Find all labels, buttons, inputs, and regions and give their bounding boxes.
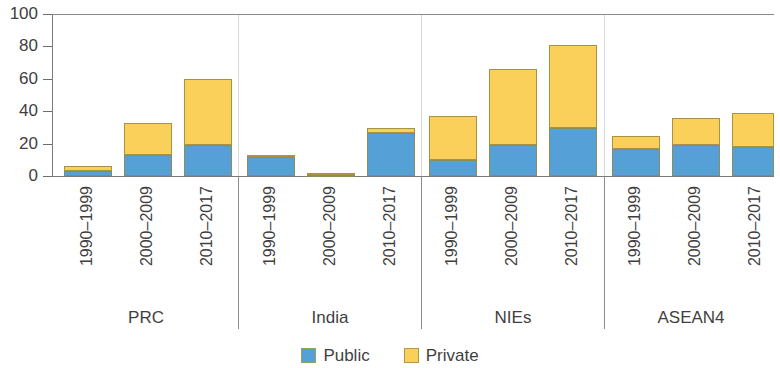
x-tick-nies-2000-2009: 2000–2009 [503, 186, 521, 296]
legend-label-public: Public [323, 347, 369, 364]
x-tick-asean4-2000-2009: 2000–2009 [686, 186, 704, 296]
group-label-asean4: ASEAN4 [606, 307, 776, 329]
x-tick-prc-2000-2009: 2000–2009 [138, 186, 156, 296]
legend-label-private: Private [426, 347, 479, 364]
chart-legend: Public Private [0, 344, 780, 366]
x-tick-asean4-1990-1999: 1990–1999 [626, 186, 644, 296]
group-label-india: India [240, 307, 420, 329]
x-tick-india-2010-2017: 2010–2017 [381, 186, 399, 296]
stacked-bar-chart: 100 80 60 40 20 0 [0, 0, 780, 368]
x-tick-prc-1990-1999: 1990–1999 [78, 186, 96, 296]
group-label-nies: NIEs [423, 307, 603, 329]
x-tick-india-1990-1999: 1990–1999 [261, 186, 279, 296]
x-tick-nies-1990-1999: 1990–1999 [443, 186, 461, 296]
legend-item-public: Public [301, 347, 369, 364]
x-tick-india-2000-2009: 2000–2009 [321, 186, 339, 296]
group-label-prc: PRC [56, 307, 236, 329]
x-tick-asean4-2010-2017: 2010–2017 [746, 186, 764, 296]
x-tick-nies-2010-2017: 2010–2017 [563, 186, 581, 296]
x-tick-prc-2010-2017: 2010–2017 [198, 186, 216, 296]
legend-swatch-public-icon [301, 348, 316, 363]
legend-item-private: Private [404, 347, 479, 364]
legend-swatch-private-icon [404, 348, 419, 363]
